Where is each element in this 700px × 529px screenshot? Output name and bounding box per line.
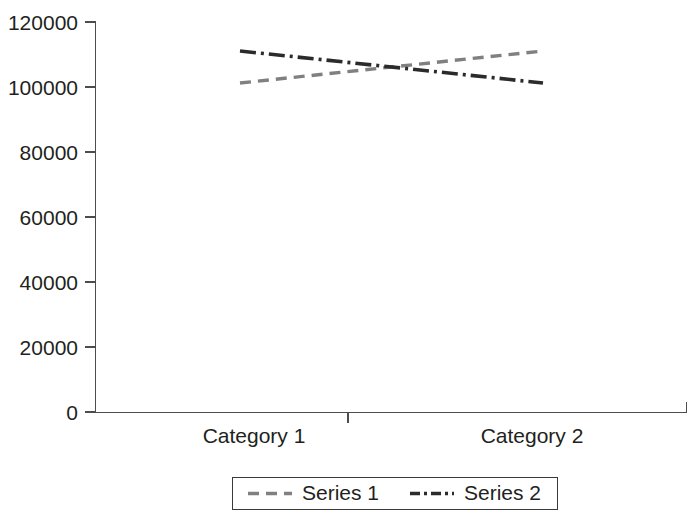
x-axis: Category 1 Category 2: [96, 402, 688, 447]
y-tick-label-40000: 40000: [20, 271, 78, 294]
plot-area: [240, 51, 543, 83]
legend-label-series-1: Series 1: [302, 481, 379, 504]
y-tick-label-20000: 20000: [20, 336, 78, 359]
y-tick-label-60000: 60000: [20, 206, 78, 229]
y-tick-label-0: 0: [66, 401, 78, 424]
x-tick-label-category-2: Category 2: [481, 424, 584, 447]
chart-legend: Series 1 Series 2: [233, 478, 558, 510]
y-axis: 120000 100000 80000 60000 40000 20000 0: [8, 11, 96, 424]
legend-label-series-2: Series 2: [464, 481, 541, 504]
chart-canvas: 120000 100000 80000 60000 40000 20000 0 …: [0, 0, 700, 529]
x-tick-label-category-1: Category 1: [203, 424, 306, 447]
y-tick-label-100000: 100000: [8, 76, 78, 99]
y-tick-label-80000: 80000: [20, 141, 78, 164]
y-tick-label-120000: 120000: [8, 11, 78, 34]
line-chart-figure: 120000 100000 80000 60000 40000 20000 0 …: [0, 0, 700, 529]
